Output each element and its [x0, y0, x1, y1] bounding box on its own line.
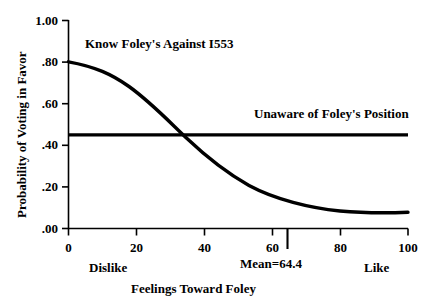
x-tick-label-20: 20 — [117, 240, 157, 256]
x-tick-label-60: 60 — [253, 240, 293, 256]
series-line-know — [69, 62, 409, 213]
x-axis-ticks — [69, 229, 409, 236]
annotation-know-foley: Know Foley's Against I553 — [85, 36, 233, 52]
x-tick-label-40: 40 — [185, 240, 225, 256]
y-tick-label-0.00: .00 — [18, 221, 58, 237]
x-axis-right-endpoint-label: Like — [364, 260, 389, 276]
x-axis-left-endpoint-label: Dislike — [89, 260, 127, 276]
x-tick-label-80: 80 — [321, 240, 361, 256]
chart-figure: 1.00 .80 .60 .40 .20 .00 0 20 40 60 80 1… — [0, 0, 427, 306]
y-axis-ticks — [62, 21, 69, 229]
y-axis-title: Probability of Voting in Favor — [14, 51, 30, 218]
annotation-unaware-foley: Unaware of Foley's Position — [254, 106, 409, 122]
x-tick-label-0: 0 — [49, 240, 89, 256]
x-tick-label-100: 100 — [388, 240, 427, 256]
annotation-mean: Mean=64.4 — [240, 256, 302, 272]
y-tick-label-1.00: 1.00 — [18, 13, 58, 29]
x-axis-title: Feelings Toward Foley — [131, 281, 256, 297]
